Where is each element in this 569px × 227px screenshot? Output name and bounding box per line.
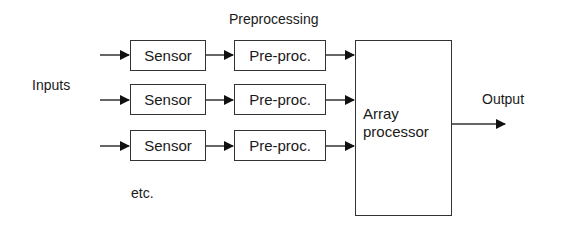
preproc-box-1: Pre-proc.	[234, 40, 326, 71]
preproc-box-3: Pre-proc.	[234, 130, 326, 161]
sensor-box-1: Sensor	[130, 40, 206, 71]
etc-label: etc.	[131, 185, 154, 201]
array-processor-line1: Array	[363, 105, 429, 123]
preprocessing-title: Preprocessing	[229, 11, 319, 27]
array-processor-label: Array processor	[363, 105, 429, 141]
output-label: Output	[482, 91, 524, 107]
inputs-label: Inputs	[32, 77, 70, 93]
sensor-box-2: Sensor	[130, 84, 206, 115]
array-processor-line2: processor	[363, 123, 429, 141]
preproc-box-2: Pre-proc.	[234, 84, 326, 115]
sensor-box-3: Sensor	[130, 130, 206, 161]
